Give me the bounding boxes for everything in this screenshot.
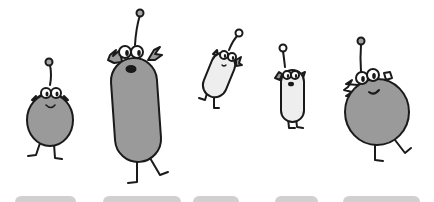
alien-1 xyxy=(27,59,73,160)
alien-4 xyxy=(275,45,305,129)
alien-2 xyxy=(108,10,168,184)
alien-5 xyxy=(344,38,411,162)
aliens-illustration xyxy=(0,0,434,202)
alien-scene xyxy=(0,0,434,202)
alien-3 xyxy=(199,30,243,109)
